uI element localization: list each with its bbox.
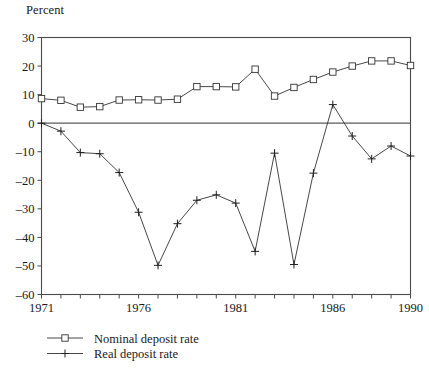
x-axis-tick-label: 1981 [223,301,248,315]
data-point-marker [213,83,219,89]
data-point-marker [38,119,46,127]
data-point-marker [97,103,103,109]
data-point-marker [310,76,316,82]
data-point-marker [290,261,298,269]
data-point-marker [116,97,122,103]
data-point-marker [330,69,336,75]
y-axis-tick-labels: 3020100–10–20–30–40–50–60 [15,31,35,302]
y-axis-tick-label: 30 [22,31,35,45]
data-point-marker [407,152,415,160]
chart-legend: Nominal deposit rateReal deposit rate [47,332,199,362]
data-point-marker [407,62,413,68]
x-axis-tick-label: 1976 [126,301,151,315]
data-point-marker [38,95,44,101]
x-axis-tick-marks [42,295,411,299]
data-point-marker [349,63,355,69]
data-point-marker [135,208,143,216]
data-point-marker [62,335,68,341]
data-point-marker [233,84,239,90]
x-axis-tick-label: 1986 [320,301,345,315]
y-axis-tick-label: –30 [15,202,35,216]
data-point-marker [58,97,64,103]
y-axis-tick-label: –50 [15,259,35,273]
data-point-marker [271,93,277,99]
y-axis-tick-label: –40 [15,231,35,245]
y-axis-tick-marks [38,38,42,295]
legend-item-label: Nominal deposit rate [94,332,199,346]
data-point-marker [155,97,161,103]
data-series-group [38,58,415,270]
data-point-marker [388,58,394,64]
legend-item-label: Real deposit rate [94,347,178,361]
y-axis-tick-label: 10 [22,88,35,102]
legend-item: Real deposit rate [47,347,178,361]
plot-frame [42,38,411,295]
y-axis-tick-label: –20 [15,174,35,188]
x-axis-tick-label: 1971 [29,301,54,315]
data-point-marker [174,96,180,102]
chart-figure: Percent 3020100–10–20–30–40–50–60 197119… [0,0,429,370]
legend-item: Nominal deposit rate [47,332,199,346]
y-axis-tick-label: 0 [28,117,34,131]
data-point-marker [232,199,240,207]
y-axis-tick-label: –10 [15,145,35,159]
data-point-marker [387,142,395,150]
y-axis-title: Percent [26,3,64,18]
data-point-marker [368,58,374,64]
data-point-marker [135,97,141,103]
data-point-marker [251,247,259,255]
x-axis-tick-label: 1990 [398,301,423,315]
data-point-marker [154,261,162,269]
data-point-marker [61,350,69,358]
data-point-marker [194,83,200,89]
y-axis-tick-label: 20 [22,60,35,74]
data-point-marker [271,149,279,157]
x-axis-tick-labels: 19711976198119861990 [29,301,423,315]
data-point-marker [309,169,317,177]
data-point-marker [212,191,220,199]
series-real-deposit-rate [38,101,415,270]
line-chart-plot: 3020100–10–20–30–40–50–60 19711976198119… [0,0,429,370]
data-point-marker [77,104,83,110]
series-nominal-deposit-rate [38,58,413,111]
data-point-marker [329,101,337,109]
data-point-marker [291,84,297,90]
data-point-marker [252,66,258,72]
